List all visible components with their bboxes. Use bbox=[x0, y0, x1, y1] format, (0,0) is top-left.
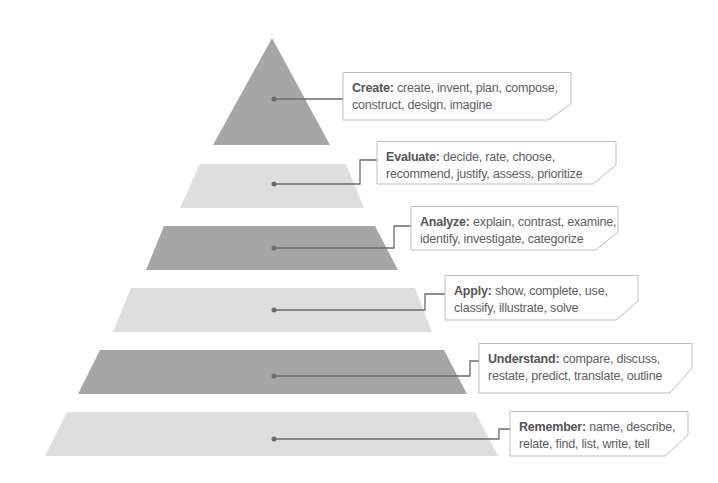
label-title-analyze: Analyze: bbox=[420, 215, 470, 229]
connector-dot-evaluate bbox=[272, 182, 277, 187]
label-title-remember: Remember: bbox=[519, 420, 586, 434]
label-verbs-create-2: construct, design, imagine bbox=[352, 97, 562, 114]
label-analyze: Analyze: explain, contrast, examine, ide… bbox=[412, 210, 617, 248]
pyramid-level-create bbox=[213, 38, 330, 145]
label-remember: Remember: name, describe, relate, find, … bbox=[511, 415, 687, 453]
label-verbs-analyze-2: identify, investigate, categorize bbox=[420, 231, 609, 248]
label-apply: Apply: show, complete, use, classify, il… bbox=[446, 279, 637, 317]
label-verbs-remember-1: name, describe, bbox=[586, 420, 675, 434]
label-verbs-create-1: create, invent, plan, compose, bbox=[394, 81, 558, 95]
label-title-create: Create: bbox=[352, 81, 394, 95]
label-create: Create: create, invent, plan, compose, c… bbox=[344, 76, 570, 114]
connector-dot-apply bbox=[272, 308, 277, 313]
label-verbs-analyze-1: explain, contrast, examine, bbox=[470, 215, 617, 229]
label-verbs-apply-2: classify, illustrate, solve bbox=[454, 300, 629, 317]
label-verbs-remember-2: relate, find, list, write, tell bbox=[519, 436, 679, 453]
label-title-apply: Apply: bbox=[454, 284, 492, 298]
connector-dot-analyze bbox=[272, 246, 277, 251]
label-title-understand: Understand: bbox=[488, 352, 559, 366]
connector-dot-create bbox=[272, 97, 277, 102]
label-understand: Understand: compare, discuss, restate, p… bbox=[480, 347, 691, 385]
label-evaluate: Evaluate: decide, rate, choose, recommen… bbox=[378, 145, 615, 183]
label-verbs-understand-1: compare, discuss, bbox=[559, 352, 660, 366]
pyramid-level-understand bbox=[78, 350, 467, 394]
label-verbs-evaluate-1: decide, rate, choose, bbox=[440, 150, 555, 164]
label-verbs-apply-1: show, complete, use, bbox=[492, 284, 608, 298]
label-title-evaluate: Evaluate: bbox=[386, 150, 440, 164]
connector-dot-remember bbox=[272, 437, 277, 442]
pyramid-level-evaluate bbox=[180, 164, 364, 208]
label-verbs-understand-2: restate, predict, translate, outline bbox=[488, 368, 683, 385]
connector-dot-understand bbox=[272, 374, 277, 379]
label-verbs-evaluate-2: recommend, justify, assess, prioritize bbox=[386, 166, 607, 183]
pyramid-level-remember bbox=[45, 412, 498, 456]
